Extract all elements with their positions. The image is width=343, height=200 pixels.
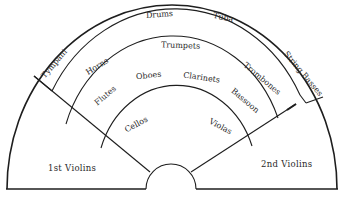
- label-trumpets: Trumpets: [161, 41, 200, 50]
- label-first-violins: 1st Violins: [48, 164, 96, 173]
- conductor-arc: [146, 164, 196, 189]
- basses-bottom-edge: [300, 95, 306, 103]
- arc-woodwind-inner: [101, 85, 252, 148]
- orchestra-seating-diagram: Drums Tuba Tympani String Basses Horns T…: [0, 0, 343, 200]
- right-divider-thick: [287, 104, 296, 110]
- label-second-violins: 2nd Violins: [261, 160, 312, 169]
